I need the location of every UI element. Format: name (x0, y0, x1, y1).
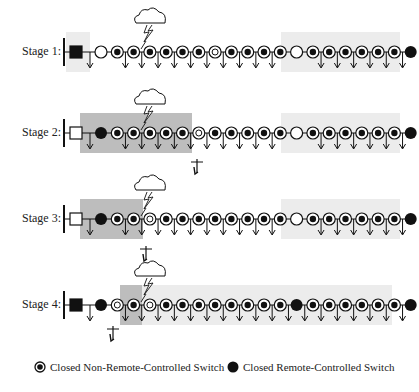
non-remote-switch-dot (375, 302, 381, 308)
non-remote-switch-dot (179, 130, 185, 136)
storm-cloud-icon (135, 261, 166, 276)
non-remote-switch-dot (147, 130, 153, 136)
stage-2-label: Stage 2: (22, 125, 61, 140)
breaker-icon (70, 127, 82, 139)
legend-remote-label: Closed Remote-Controlled Switch (243, 361, 395, 373)
non-remote-switch-dot (310, 49, 316, 55)
non-remote-switch-dot (326, 216, 332, 222)
non-remote-switch-dot (212, 216, 218, 222)
stage-3-label: Stage 3: (22, 211, 61, 226)
remote-switch-icon (405, 46, 417, 58)
non-remote-switch-dot (342, 49, 348, 55)
non-remote-switch-dot (179, 49, 185, 55)
non-remote-switch-dot (228, 130, 234, 136)
diagram-canvas (0, 0, 419, 392)
remote-switch-icon (95, 127, 107, 139)
lightning-icon (144, 25, 153, 42)
open-switch-icon (95, 46, 107, 58)
non-remote-switch-dot (391, 49, 397, 55)
non-remote-switch-dot (196, 302, 202, 308)
non-remote-switch-dot (245, 216, 251, 222)
non-remote-switch-dot (261, 130, 267, 136)
non-remote-switch-dot (212, 302, 218, 308)
non-remote-switch-dot (310, 216, 316, 222)
remote-switch-icon (95, 299, 107, 311)
non-remote-switch-dot (326, 302, 332, 308)
non-remote-switch-dot (228, 49, 234, 55)
non-remote-switch-dot (310, 130, 316, 136)
non-remote-switch-dot (196, 49, 202, 55)
non-remote-switch-dot (277, 130, 283, 136)
non-remote-switch-dot (391, 216, 397, 222)
non-remote-switch-dot (359, 130, 365, 136)
remote-switch-icon (227, 361, 239, 373)
non-remote-switch-dot (163, 302, 169, 308)
legend-non-remote-label: Closed Non-Remote-Controlled Switch (50, 361, 224, 373)
non-remote-switch-dot (375, 216, 381, 222)
open-switch-icon (291, 213, 303, 225)
non-remote-switch-dot (245, 302, 251, 308)
remote-switch-icon (405, 127, 417, 139)
non-remote-switch-dot (375, 130, 381, 136)
non-remote-switch-dot (342, 216, 348, 222)
non-remote-switch-dot (245, 49, 251, 55)
non-remote-switch-dot (277, 49, 283, 55)
non-remote-switch-dot (179, 216, 185, 222)
non-remote-switch-dot (163, 130, 169, 136)
non-remote-switch-dot (261, 49, 267, 55)
lightning-icon (144, 192, 153, 209)
stage-4-label: Stage 4: (22, 297, 61, 312)
stage-1-label: Stage 1: (22, 44, 61, 59)
non-remote-switch-dot (114, 130, 120, 136)
fault-switch-inner (196, 130, 202, 136)
non-remote-switch-dot (342, 130, 348, 136)
non-remote-switch-dot (359, 49, 365, 55)
open-switch-icon (291, 46, 303, 58)
storm-cloud-icon (135, 175, 166, 190)
feeder-restoration-diagram: Stage 1: Stage 2: Stage 3: Stage 4: Clos… (0, 0, 419, 392)
remote-switch-icon (291, 299, 303, 311)
non-remote-switch-dot (228, 216, 234, 222)
remote-switch-icon (405, 299, 417, 311)
non-remote-switch-dot (196, 216, 202, 222)
open-switch-icon (291, 127, 303, 139)
breaker-icon (70, 213, 82, 225)
non-remote-switch-dot (277, 302, 283, 308)
non-remote-switch-icon (34, 361, 46, 373)
non-remote-switch-dot (147, 49, 153, 55)
non-remote-switch-dot (179, 302, 185, 308)
non-remote-switch-dot (261, 302, 267, 308)
non-remote-switch-dot (130, 216, 136, 222)
non-remote-switch-dot (130, 49, 136, 55)
breaker-icon (70, 46, 82, 58)
legend-non-remote: Closed Non-Remote-Controlled Switch (34, 361, 224, 373)
fault-switch-inner (212, 49, 218, 55)
remote-switch-icon (95, 213, 107, 225)
non-remote-switch-dot (326, 130, 332, 136)
non-remote-switch-dot (391, 130, 397, 136)
non-remote-switch-dot (391, 302, 397, 308)
storm-cloud-icon (135, 8, 166, 23)
non-remote-switch-dot (228, 302, 234, 308)
non-remote-switch-dot (326, 49, 332, 55)
non-remote-switch-dot (375, 49, 381, 55)
non-remote-switch-dot (359, 216, 365, 222)
non-remote-switch-dot (130, 302, 136, 308)
non-remote-switch-dot (114, 216, 120, 222)
non-remote-switch-dot (130, 130, 136, 136)
legend-remote: Closed Remote-Controlled Switch (227, 361, 395, 373)
non-remote-switch-dot (277, 216, 283, 222)
fault-switch-inner (147, 302, 153, 308)
non-remote-switch-dot (342, 302, 348, 308)
non-remote-switch-dot (245, 130, 251, 136)
non-remote-switch-dot (212, 130, 218, 136)
fault-switch-inner (114, 302, 120, 308)
non-remote-switch-dot (163, 49, 169, 55)
remote-switch-icon (405, 213, 417, 225)
non-remote-switch-dot (310, 302, 316, 308)
fault-switch-inner (147, 216, 153, 222)
non-remote-switch-dot (261, 216, 267, 222)
non-remote-switch-dot (114, 49, 120, 55)
breaker-icon (70, 299, 82, 311)
storm-cloud-icon (135, 89, 166, 104)
